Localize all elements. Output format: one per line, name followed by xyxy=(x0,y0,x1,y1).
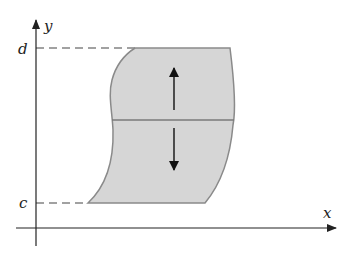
shaded-region xyxy=(88,48,234,203)
x-axis-label: x xyxy=(323,204,332,222)
c-label: c xyxy=(19,194,28,212)
d-label: d xyxy=(18,40,28,58)
y-axis-label: y xyxy=(43,17,53,35)
diagram-canvas: y x d c xyxy=(0,0,343,259)
